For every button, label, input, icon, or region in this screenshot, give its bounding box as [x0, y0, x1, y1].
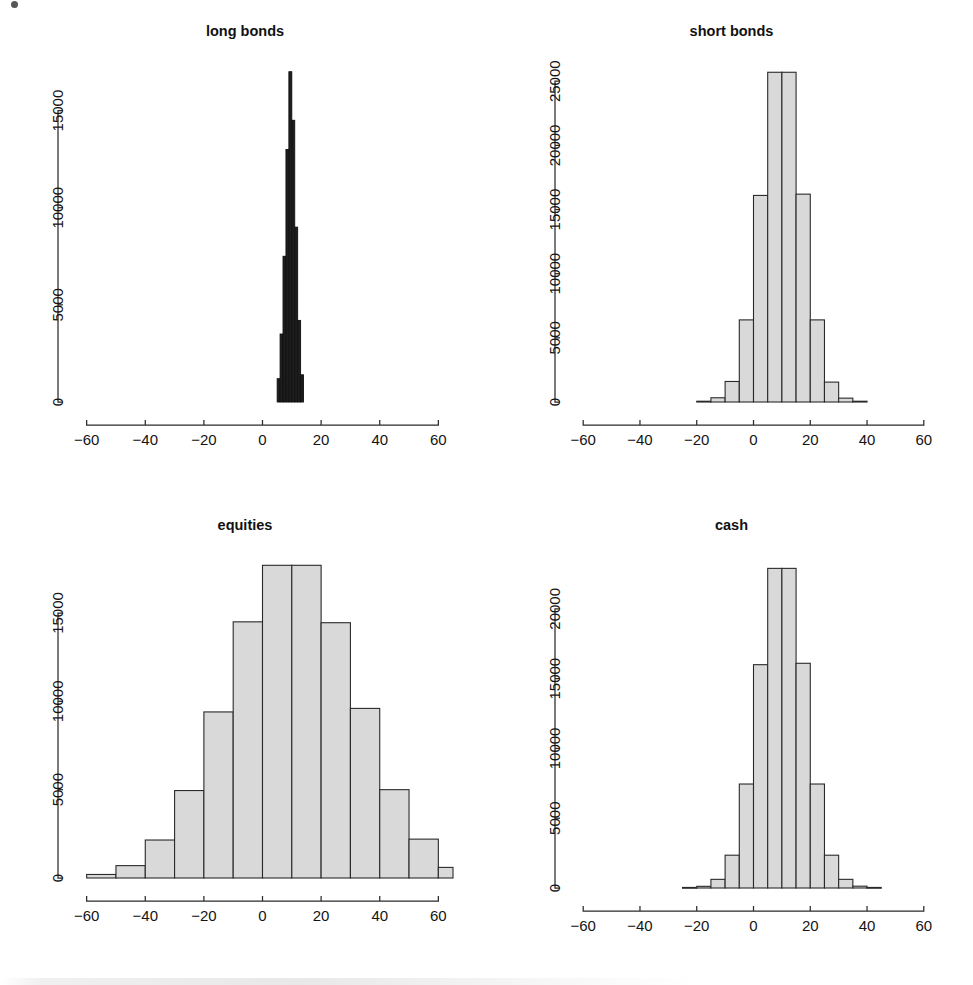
histogram-bar	[839, 398, 853, 402]
x-tick-label: −40	[133, 907, 158, 924]
y-tick-label: 20000	[546, 588, 563, 630]
bars-group	[697, 72, 867, 402]
x-tick-label: −60	[74, 431, 99, 448]
x-tick-label: 20	[313, 907, 330, 924]
x-tick-label: −40	[133, 431, 158, 448]
histogram-bar	[380, 790, 409, 878]
x-tick-label: 40	[371, 431, 388, 448]
histogram-bar	[350, 708, 379, 878]
x-tick-label: 20	[802, 917, 819, 934]
histogram-bar	[782, 72, 796, 402]
x-tick-label: 20	[802, 431, 819, 448]
histogram-bar	[697, 401, 711, 402]
chart-cash: cash05000100001500020000−60−40−200204060	[490, 490, 973, 985]
x-tick-label: 0	[749, 917, 757, 934]
histogram-bar	[853, 886, 867, 888]
histogram-bar	[796, 663, 810, 888]
y-tick-label: 5000	[49, 288, 66, 321]
histogram-bar	[824, 855, 838, 888]
y-tick-label: 0	[546, 884, 563, 892]
y-tick-label: 15000	[546, 189, 563, 231]
y-tick-label: 20000	[546, 125, 563, 167]
x-tick-label: 40	[371, 907, 388, 924]
histogram-bar	[711, 879, 725, 888]
y-tick-label: 5000	[546, 321, 563, 354]
x-tick-label: −20	[191, 907, 216, 924]
chart-equities: equities050001000015000−60−40−200204060	[0, 490, 490, 985]
panel-short-bonds: short bonds0500010000150002000025000−60−…	[490, 0, 973, 490]
y-tick-label: 0	[546, 398, 563, 406]
y-tick-label: 10000	[49, 680, 66, 722]
panel-long-bonds: long bonds050001000015000−60−40−20020406…	[0, 0, 490, 490]
histogram-bar	[116, 866, 145, 878]
y-tick-label: 5000	[546, 802, 563, 835]
bars-group	[87, 565, 453, 878]
histogram-bar	[87, 874, 116, 878]
x-tick-label: −60	[74, 907, 99, 924]
x-tick-label: −20	[191, 431, 216, 448]
y-tick-label: 5000	[49, 773, 66, 806]
y-tick-label: 15000	[546, 658, 563, 700]
histogram-bar	[739, 784, 753, 888]
x-tick-label: −60	[570, 431, 595, 448]
histogram-bar	[263, 565, 292, 878]
histogram-bar	[697, 886, 711, 888]
histogram-bar	[810, 784, 824, 888]
histogram-figure: long bonds050001000015000−60−40−20020406…	[0, 0, 973, 985]
x-tick-label: −40	[627, 917, 652, 934]
chart-short-bonds: short bonds0500010000150002000025000−60−…	[490, 0, 973, 490]
histogram-bar	[867, 887, 881, 888]
y-axis-line	[58, 613, 63, 878]
x-tick-label: 60	[430, 431, 447, 448]
y-tick-label: 15000	[49, 592, 66, 634]
x-tick-label: −20	[684, 431, 709, 448]
histogram-bar	[768, 72, 782, 402]
histogram-bar	[739, 320, 753, 402]
bars-group	[277, 72, 303, 402]
y-tick-label: 15000	[49, 90, 66, 132]
panel-equities: equities050001000015000−60−40−200204060	[0, 490, 490, 985]
x-tick-label: 40	[859, 917, 876, 934]
histogram-bar	[321, 623, 350, 878]
chart-long-bonds: long bonds050001000015000−60−40−20020406…	[0, 0, 490, 490]
histogram-bar	[725, 381, 739, 402]
x-tick-label: 20	[313, 431, 330, 448]
y-tick-label: 10000	[49, 187, 66, 229]
x-tick-label: 0	[258, 431, 266, 448]
histogram-bar	[824, 382, 838, 402]
histogram-bar	[301, 375, 304, 402]
panel-title: long bonds	[206, 23, 284, 39]
histogram-bar	[711, 398, 725, 402]
x-tick-label: 60	[915, 431, 932, 448]
x-tick-label: −40	[627, 431, 652, 448]
panel-cash: cash05000100001500020000−60−40−200204060	[490, 490, 973, 985]
histogram-bar	[782, 568, 796, 888]
y-tick-label: 25000	[546, 60, 563, 102]
histogram-bar	[796, 194, 810, 402]
histogram-bar	[839, 879, 853, 888]
histogram-bar	[175, 791, 204, 878]
panel-title: equities	[218, 517, 273, 533]
x-tick-label: −20	[684, 917, 709, 934]
x-tick-label: 0	[258, 907, 266, 924]
histogram-bar	[810, 320, 824, 402]
histogram-bar	[754, 665, 768, 888]
histogram-bar	[292, 565, 321, 878]
x-tick-label: 40	[859, 431, 876, 448]
histogram-bar	[683, 887, 697, 888]
histogram-bar	[853, 401, 867, 402]
y-tick-label: 10000	[546, 728, 563, 770]
histogram-bar	[438, 867, 453, 878]
panel-title: short bonds	[690, 23, 774, 39]
x-tick-label: 0	[749, 431, 757, 448]
histogram-bar	[409, 839, 438, 878]
y-axis-line	[58, 111, 63, 402]
y-tick-label: 0	[49, 398, 66, 406]
histogram-bar	[204, 712, 233, 878]
x-tick-label: 60	[430, 907, 447, 924]
x-tick-label: 60	[915, 917, 932, 934]
y-tick-label: 10000	[546, 253, 563, 295]
histogram-bar	[145, 840, 174, 878]
histogram-bar	[754, 195, 768, 402]
scan-artifact-speck	[11, 1, 18, 8]
